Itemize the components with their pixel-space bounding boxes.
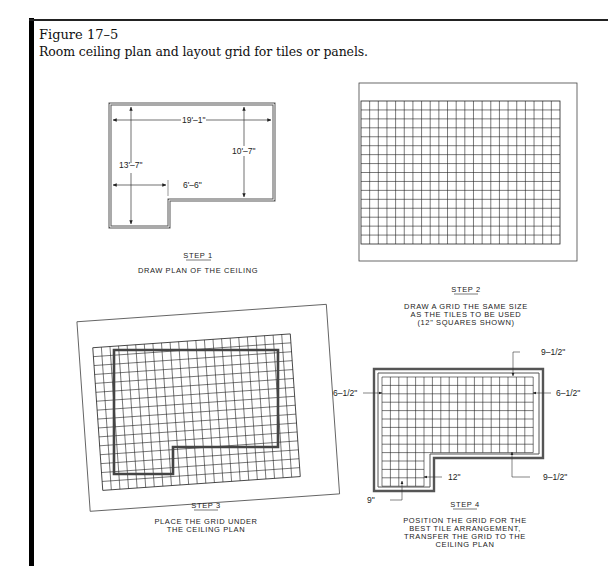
step2-title: STEP 2	[451, 285, 480, 294]
step3-desc-line2: THE CEILING PLAN	[167, 525, 245, 534]
step4-dim-top: 9–1/2"	[541, 347, 565, 357]
step4-dim-left: 6–1/2"	[333, 388, 357, 398]
step2-grid: STEP 2 DRAW A GRID THE SAME SIZE AS THE …	[359, 83, 577, 327]
step2-desc-line3: (12" SQUARES SHOWN)	[418, 318, 515, 327]
step1-plan: 19'–1" 13'–7" 10'–7" 6'–6" STEP 1 DRAW P…	[110, 104, 274, 275]
step1-dim-notch: 6'–6"	[183, 180, 202, 190]
ceiling-plan-diagram: 19'–1" 13'–7" 10'–7" 6'–6" STEP 1 DRAW P…	[0, 0, 608, 579]
step3-overlay: STEP 3 PLACE THE GRID UNDER THE CEILING …	[77, 304, 340, 534]
step1-title: STEP 1	[183, 251, 212, 260]
step4-title: STEP 4	[450, 500, 479, 509]
step1-desc-line1: DRAW PLAN OF THE CEILING	[138, 266, 258, 275]
step4-dim-bottom-right: 9–1/2"	[543, 472, 567, 482]
step4-dim-right: 6–1/2"	[556, 388, 580, 398]
step4-positioned-grid: 9–1/2" 6–1/2" 6–1/2" 9–1/2" 12" 9" STEP …	[333, 347, 580, 549]
step4-dim-bottom-left: 9"	[367, 495, 375, 505]
step3-title: STEP 3	[191, 501, 220, 510]
step1-dim-width: 19'–1"	[182, 115, 206, 125]
step1-dim-left-height: 13'–7"	[119, 160, 143, 170]
step4-desc-line4: CEILING PLAN	[436, 540, 495, 549]
step1-dim-right-height: 10'–7"	[232, 146, 256, 156]
step4-dim-tile: 12"	[448, 472, 460, 482]
